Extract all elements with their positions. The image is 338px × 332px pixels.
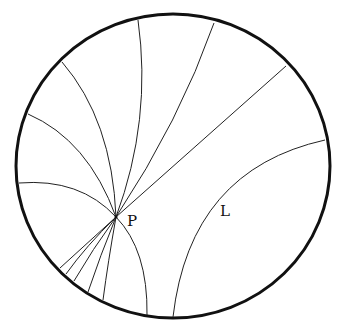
geodesic-top-2	[116, 23, 214, 217]
geodesic-bottom-6	[116, 217, 147, 315]
geodesic-top-1	[116, 20, 142, 217]
geodesic-bottom-2	[66, 217, 116, 274]
line-L-label: L	[220, 202, 230, 220]
line-L	[173, 140, 325, 317]
geodesic-bottom-5	[103, 217, 116, 300]
geodesic-left-1	[62, 62, 116, 217]
poincare-disk-diagram: P L	[0, 0, 338, 332]
geodesic-bottom-4	[88, 217, 116, 292]
point-P-marker	[114, 215, 117, 218]
geodesic-left-2	[28, 114, 116, 217]
point-P-label: P	[127, 212, 137, 230]
geodesic-left-3	[19, 182, 116, 217]
